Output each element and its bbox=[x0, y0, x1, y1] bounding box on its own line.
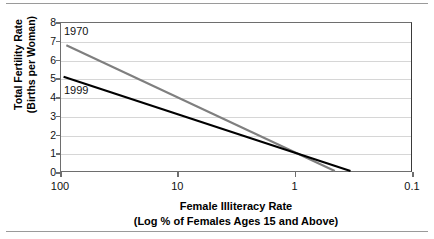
y-axis-tick-label: 0 bbox=[42, 167, 56, 177]
series-label-1999: 1999 bbox=[64, 84, 88, 96]
y-axis-title-line2: (Births per Woman) bbox=[24, 0, 37, 140]
x-axis-title-line1: Female Illiteracy Rate bbox=[60, 199, 412, 214]
x-axis-tick-label: 100 bbox=[37, 180, 83, 192]
y-axis-tick-label: 6 bbox=[42, 55, 56, 65]
x-axis-tick-mark bbox=[60, 172, 62, 177]
y-axis-tick-label: 3 bbox=[42, 111, 56, 121]
y-axis-title-line1: Total Fertility Rate bbox=[12, 0, 25, 140]
series-lines bbox=[61, 23, 411, 171]
y-axis-tick-label: 1 bbox=[42, 148, 56, 158]
top-divider-rule bbox=[6, 3, 428, 4]
x-axis-tick-label: 10 bbox=[154, 180, 200, 192]
x-axis-tick-label: 0.1 bbox=[389, 180, 434, 192]
x-axis-title: Female Illiteracy Rate (Log % of Females… bbox=[60, 199, 412, 228]
y-axis-tick-label: 2 bbox=[42, 130, 56, 140]
series-label-1970: 1970 bbox=[64, 25, 88, 37]
series-line-1999 bbox=[64, 77, 351, 171]
y-axis-tick-label: 4 bbox=[42, 92, 56, 102]
y-axis-tick-label: 5 bbox=[42, 73, 56, 83]
y-axis-tick-labels: 876543210 bbox=[40, 22, 56, 172]
plot-area bbox=[60, 22, 412, 172]
chart-figure: Total Fertility Rate (Births per Woman) … bbox=[0, 0, 434, 239]
x-axis-tick-mark bbox=[412, 172, 414, 177]
x-axis-tick-label: 1 bbox=[272, 180, 318, 192]
y-axis-tick-label: 8 bbox=[42, 17, 56, 27]
y-axis-title: Total Fertility Rate (Births per Woman) bbox=[12, 0, 37, 140]
bottom-divider-rule bbox=[6, 231, 428, 232]
y-axis-tick-label: 7 bbox=[42, 36, 56, 46]
x-axis-tick-mark bbox=[177, 172, 179, 177]
x-axis-tick-mark bbox=[295, 172, 297, 177]
x-axis-title-line2: (Log % of Females Ages 15 and Above) bbox=[60, 214, 412, 229]
